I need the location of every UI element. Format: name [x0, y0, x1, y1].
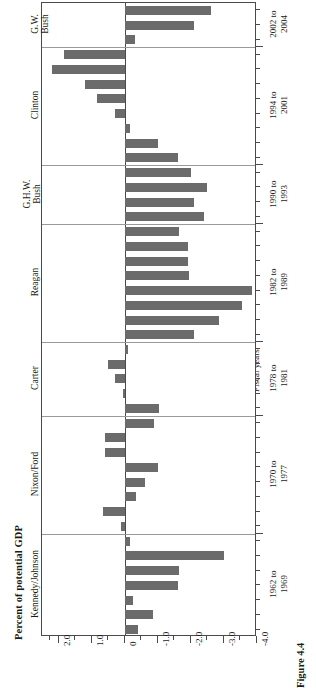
y-axis-title: Percent of potential GDP — [13, 525, 24, 640]
row-tick — [256, 437, 260, 438]
bar — [125, 316, 219, 325]
bar — [125, 286, 252, 295]
group-boundary-tick — [256, 341, 263, 342]
row-tick — [256, 540, 260, 541]
row-tick — [256, 629, 260, 630]
president-label: Reagan — [30, 268, 40, 297]
bar — [115, 374, 125, 383]
row-tick — [256, 525, 260, 526]
period-label: 1962 to1969 — [268, 571, 290, 598]
bar — [125, 478, 145, 487]
row-tick — [256, 334, 260, 335]
group-separator — [42, 47, 255, 48]
bar — [125, 124, 130, 133]
row-tick — [256, 407, 260, 408]
bar — [105, 433, 125, 442]
bar — [125, 551, 224, 560]
row-tick — [256, 319, 260, 320]
bar — [125, 301, 242, 310]
president-label: Carter — [30, 366, 40, 390]
period-label: 1994 to2001 — [268, 92, 290, 119]
period-label: 1978 to1981 — [268, 364, 290, 391]
president-label: Clinton — [30, 91, 40, 120]
bar — [125, 596, 133, 605]
x-tick-major — [58, 636, 59, 643]
row-tick — [256, 378, 260, 379]
row-tick — [256, 304, 260, 305]
group-boundary-tick — [256, 164, 263, 165]
bar — [125, 463, 158, 472]
group-separator — [42, 534, 255, 535]
row-tick — [256, 584, 260, 585]
bar — [125, 625, 138, 634]
bar — [85, 80, 125, 89]
bar — [123, 389, 125, 398]
row-tick — [256, 113, 260, 114]
row-tick — [256, 157, 260, 158]
x-tick-label: -2.0 — [194, 632, 204, 646]
bar — [125, 537, 130, 546]
bar — [125, 610, 153, 619]
bar — [125, 21, 194, 30]
x-tick-label: 0 — [128, 642, 138, 647]
figure-caption: Figure 4.4 — [295, 643, 306, 688]
bar — [125, 198, 194, 207]
row-tick — [256, 452, 260, 453]
bar — [125, 271, 190, 280]
row-tick — [256, 348, 260, 349]
bar — [103, 507, 125, 516]
row-tick — [256, 496, 260, 497]
row-tick — [256, 363, 260, 364]
bar — [108, 360, 125, 369]
row-tick — [256, 599, 260, 600]
x-tick-major — [190, 636, 191, 643]
row-tick — [256, 216, 260, 217]
period-label: 1970 to1977 — [268, 460, 290, 487]
bar — [115, 109, 125, 118]
bar — [125, 566, 180, 575]
bar — [125, 139, 158, 148]
x-tick-major — [223, 636, 224, 643]
x-tick-major — [91, 636, 92, 643]
period-label: 2002 to2004 — [268, 10, 290, 37]
x-tick-minor — [173, 636, 174, 640]
bar — [125, 257, 188, 266]
row-tick — [256, 614, 260, 615]
bar — [125, 212, 204, 221]
x-tick-major — [256, 636, 257, 643]
right-axis-period-ticks — [256, 2, 266, 636]
x-axis: 2.01.00-1.0-2.0-3.0-4.0 — [41, 636, 256, 650]
row-tick — [256, 245, 260, 246]
row-tick — [256, 54, 260, 55]
row-tick — [256, 231, 260, 232]
bar — [125, 419, 155, 428]
president-label: G.H.W.Bush — [22, 179, 42, 208]
row-tick — [256, 570, 260, 571]
x-tick-minor — [107, 636, 108, 640]
x-tick-major — [157, 636, 158, 643]
bar — [105, 448, 125, 457]
x-tick-label: 2.0 — [62, 635, 72, 646]
group-boundary-tick — [256, 223, 263, 224]
plot-area — [41, 2, 256, 636]
bar — [125, 168, 191, 177]
figure-4-4: Percent of potential GDP Fiscal years Fi… — [0, 0, 316, 688]
group-separator — [42, 224, 255, 225]
row-tick — [256, 98, 260, 99]
period-label: 1982 to1989 — [268, 268, 290, 295]
bar — [125, 227, 180, 236]
period-label: 1990 to1993 — [268, 180, 290, 207]
group-boundary-tick — [256, 533, 263, 534]
bar — [125, 581, 178, 590]
x-tick-minor — [239, 636, 240, 640]
row-tick — [256, 260, 260, 261]
row-tick — [256, 142, 260, 143]
bar — [125, 404, 160, 413]
bar — [64, 50, 125, 59]
row-tick — [256, 511, 260, 512]
x-tick-label: 1.0 — [95, 635, 105, 646]
x-tick-minor — [140, 636, 141, 640]
group-boundary-tick — [256, 415, 263, 416]
bar — [125, 183, 208, 192]
group-separator — [42, 342, 255, 343]
